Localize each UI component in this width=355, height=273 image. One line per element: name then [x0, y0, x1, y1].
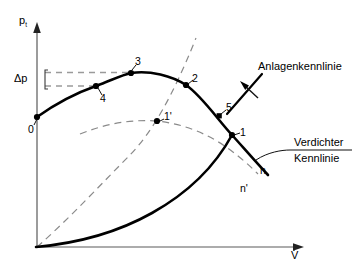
system-characteristic-curve — [36, 135, 232, 247]
compressor-curve-label-line2: Kennlinie — [294, 152, 339, 164]
delta-p-label: Δp — [14, 72, 27, 84]
system-curve-label: Anlagenkennlinie — [258, 60, 342, 72]
point-label-1-prime: 1' — [164, 110, 172, 122]
system-curve-callout-group — [227, 74, 262, 114]
speed-n-prime-label: n' — [240, 182, 248, 194]
point-label-2: 2 — [192, 72, 198, 84]
diagram-root: pt · V Δp Anlagenkennlinie Verdichter Ke… — [0, 0, 355, 273]
speed-n-label: n — [260, 164, 266, 176]
compressor-curve-n-prime-dashed — [80, 121, 258, 174]
system-curve-dashed — [37, 38, 196, 247]
y-axis-label-subscript: t — [25, 21, 27, 28]
delta-p-dimension-group — [45, 70, 130, 89]
y-axis-label: pt — [19, 14, 27, 28]
x-axis-label: · V — [291, 250, 298, 261]
compressor-curve-label-line1: Verdichter — [294, 136, 344, 148]
y-axis-arrowhead — [33, 22, 41, 33]
point-marker-3 — [128, 70, 134, 76]
compressor-characteristic-curve — [37, 72, 232, 135]
point-label-0: 0 — [28, 123, 34, 135]
verdichter-leader-curve — [256, 150, 290, 160]
anlagenkennlinie-leader-line — [227, 74, 262, 114]
point-marker-2 — [183, 82, 189, 88]
point-label-1: 1 — [240, 126, 246, 138]
point-marker-1-prime — [154, 118, 160, 124]
x-axis-label-dot: · — [293, 246, 296, 255]
point-label-5: 5 — [226, 101, 232, 113]
point-label-4: 4 — [100, 92, 106, 104]
point-label-3: 3 — [135, 55, 141, 67]
axes-group — [33, 22, 304, 251]
